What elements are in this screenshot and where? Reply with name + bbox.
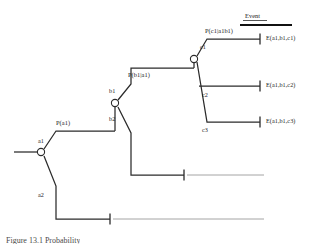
chance-node-b[interactable] <box>111 99 118 106</box>
event-column-header: Event <box>245 13 260 19</box>
branch-b2-line <box>118 107 184 175</box>
probability-label-a1: P(a1) <box>56 120 70 126</box>
event-label-c1: E(a1,b1,c1) <box>266 35 295 41</box>
branch-label-a1: a1 <box>38 138 44 144</box>
event-label-c2: E(a1,b1,c2) <box>266 82 295 88</box>
tree-diagram-canvas <box>0 0 310 244</box>
branch-label-c2: c2 <box>202 92 208 98</box>
branch-a1-line <box>44 131 115 149</box>
branch-a2-line <box>44 156 110 219</box>
branch-label-c1: c1 <box>200 44 206 50</box>
branch-label-b2: b2 <box>109 116 115 122</box>
chance-node-c[interactable] <box>190 55 197 62</box>
event-label-c3: E(a1,b1,c3) <box>266 118 295 124</box>
probability-label-b1: P(b1|a1) <box>128 72 150 78</box>
chance-node-root[interactable] <box>37 148 44 155</box>
figure-caption: Figure 13.1 Probability <box>6 236 80 244</box>
probability-label-c1: P(c1|a1b1) <box>205 28 233 34</box>
branch-label-c3: c3 <box>202 127 208 133</box>
branch-label-a2: a2 <box>38 192 44 198</box>
branch-label-b1: b1 <box>109 88 115 94</box>
probability-tree-figure: Event P(c1|a1b1) P(b1|a1) P(a1) c1 c2 c3… <box>0 0 310 244</box>
branch-c1-line <box>197 39 260 56</box>
